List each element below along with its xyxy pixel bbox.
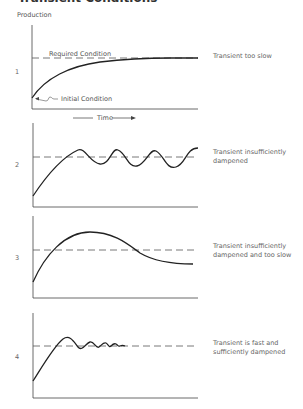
initial-condition-label: Initial Condition <box>61 95 112 103</box>
panel-3-description: Transient insufficiently dampened and to… <box>213 242 291 260</box>
required-condition-label: Required Condition <box>49 50 111 58</box>
panel-4-description: Transient is fast and sufficiently dampe… <box>213 339 285 357</box>
initial-condition-leader <box>36 97 58 101</box>
panel-2 <box>33 123 198 207</box>
panel-3 <box>33 216 198 298</box>
panel-1-description: Transient too slow <box>213 52 272 61</box>
panel-4-description-line1: Transient is fast and <box>213 339 285 348</box>
panel-2-curve <box>33 148 198 196</box>
panel-1 <box>32 25 198 120</box>
panel-number-2: 2 <box>15 161 19 169</box>
x-axis-label: Time <box>97 114 113 122</box>
panel-4-description-line2: sufficiently dampened <box>213 348 285 357</box>
panel-4 <box>33 313 198 398</box>
arrow-right-icon <box>131 116 136 120</box>
panel-3-curve <box>33 232 193 282</box>
panel-2-description-line1: Transient insufficiently <box>213 148 286 157</box>
panel-1-description-line1: Transient too slow <box>213 52 272 61</box>
panel-3-description-line1: Transient insufficiently <box>213 242 291 251</box>
panel-1-curve <box>32 58 198 98</box>
panel-number-4: 4 <box>15 353 19 361</box>
panel-3-description-line2: dampened and too slow <box>213 251 291 260</box>
panel-4-curve <box>33 337 125 381</box>
panel-2-description: Transient insufficiently dampened <box>213 148 286 166</box>
panel-number-1: 1 <box>15 68 19 76</box>
panel-2-description-line2: dampened <box>213 157 286 166</box>
arrowhead-icon <box>35 97 39 101</box>
panel-number-3: 3 <box>15 254 19 262</box>
